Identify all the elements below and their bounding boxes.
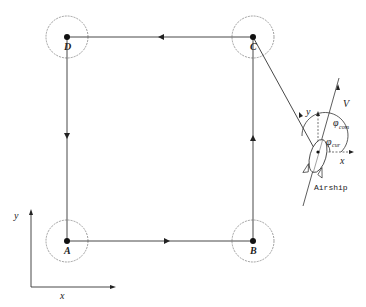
arrow-left-icon [158, 34, 164, 40]
arrow-right-icon [164, 238, 170, 244]
arrow-toward-c-icon [299, 112, 303, 118]
airship: V y x φ com φ cur Airship [302, 78, 354, 206]
waypoint-dots [64, 34, 256, 244]
angle-com-subscript: com [339, 124, 350, 130]
local-x-label: x [339, 155, 345, 166]
waypoint-circles [46, 16, 274, 262]
airship-label: Airship [314, 183, 348, 192]
path-lines [67, 37, 314, 241]
waypoint-label-c: C [250, 41, 257, 52]
waypoint-label-a: A [63, 245, 71, 256]
waypoint-dot-c [250, 34, 256, 40]
global-y-arrow-icon [29, 209, 33, 215]
global-x-label: x [59, 290, 65, 301]
angle-cur-subscript: cur [332, 142, 341, 148]
arrow-up-icon [250, 135, 256, 141]
local-x-arrow-icon [349, 150, 354, 154]
global-x-arrow-icon [110, 285, 116, 289]
waypoint-label-b: B [249, 245, 257, 256]
diagram-canvas: D C A B V y x φ com φ cur Airship [0, 0, 366, 307]
path-airship-to-c [253, 37, 314, 148]
waypoint-label-d: D [63, 41, 71, 52]
arrow-down-icon [64, 133, 70, 139]
waypoint-dot-d [64, 34, 70, 40]
velocity-label: V [343, 98, 351, 109]
waypoint-dot-a [64, 238, 70, 244]
direction-arrows [64, 34, 303, 244]
global-y-label: y [13, 210, 19, 221]
local-y-label: y [305, 106, 311, 117]
waypoint-dot-b [250, 238, 256, 244]
airship-center-dot [316, 150, 319, 153]
